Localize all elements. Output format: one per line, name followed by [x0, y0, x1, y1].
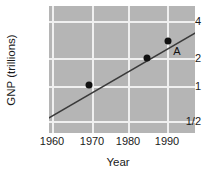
- x-axis-tick-1990: 1990: [155, 136, 179, 147]
- y-axis-tick-4: 4: [157, 16, 204, 27]
- data-point-1984: [144, 55, 151, 62]
- x-axis-tick-1960: 1960: [40, 136, 64, 147]
- y-axis-tick-half: 1/2: [157, 116, 204, 127]
- data-point-1970: [86, 82, 93, 89]
- data-point-a: [165, 38, 172, 45]
- gnp-vs-year-chart: A 4 2 1 1/2 1960 1970 1980 1990 GNP (tri…: [0, 0, 204, 179]
- y-axis-label: GNP (trillions): [6, 34, 18, 105]
- x-axis-tick-1980: 1980: [116, 136, 140, 147]
- y-axis-tick-1: 1: [157, 81, 204, 92]
- x-axis-label: Year: [106, 157, 129, 169]
- y-axis-tick-2: 2: [157, 53, 204, 64]
- x-axis-tick-1970: 1970: [80, 136, 104, 147]
